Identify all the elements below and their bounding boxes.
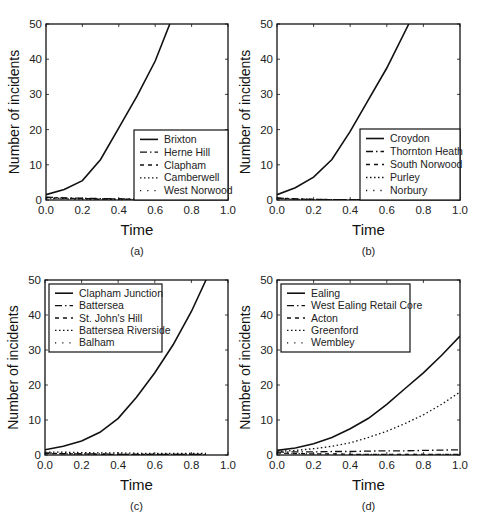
y-tick-label: 30 [29,88,42,100]
y-axis-label: Number of incidents [5,305,21,430]
legend-entry: Thornton Heath [390,145,463,157]
y-tick-label: 10 [28,414,41,426]
y-tick-label: 20 [28,379,41,391]
x-tick-label: 0.2 [306,459,322,471]
x-axis-label: Time [352,221,385,238]
y-tick-label: 50 [29,18,42,30]
x-tick-label: 0.6 [147,459,163,471]
legend-entry: Herne Hill [164,146,210,158]
legend: Clapham JunctionBatterseaSt. John's Hill… [49,284,171,352]
chart-panel-a: 0.00.20.40.60.81.001020304050TimeNumber … [6,18,236,257]
panel-label: (a) [130,245,143,257]
y-tick-label: 20 [29,124,42,136]
y-tick-label: 40 [29,53,42,65]
x-tick-label: 0.4 [110,459,127,471]
series-line [277,453,460,454]
series-line [277,392,460,452]
legend-entry: Norbury [390,184,428,196]
series-line [45,452,206,453]
x-tick-label: 0.8 [184,204,200,216]
x-tick-label: 0.2 [306,204,322,216]
x-axis-label: Time [120,476,153,493]
y-tick-label: 20 [260,379,273,391]
series-line [277,336,460,450]
x-tick-label: 0.6 [147,204,163,216]
y-tick-label: 30 [260,344,273,356]
chart-panel-c: 0.00.20.40.60.81.001020304050TimeNumber … [5,274,236,512]
y-tick-label: 50 [260,274,273,286]
y-tick-label: 30 [260,88,273,100]
x-tick-label: 0.8 [183,459,199,471]
y-tick-label: 40 [260,309,273,321]
chart-panel-d: 0.00.20.40.60.81.001020304050TimeNumber … [237,274,468,512]
y-tick-label: 40 [260,53,273,65]
legend-entry: St. John's Hill [79,312,142,324]
legend-entry: Croydon [390,132,430,144]
x-tick-label: 0.4 [111,204,128,216]
y-tick-label: 20 [260,124,273,136]
legend-entry: Wembley [311,336,355,348]
legend-entry: Clapham Junction [79,287,163,299]
x-tick-label: 0.4 [342,204,359,216]
y-axis-label: Number of incidents [237,305,253,430]
series-line [277,450,460,452]
x-tick-label: 0.4 [342,459,359,471]
x-tick-label: 0.6 [379,459,395,471]
y-tick-label: 0 [267,449,273,461]
y-tick-label: 0 [35,449,41,461]
x-tick-label: 1.0 [220,204,236,216]
chart-panel-b: 0.00.20.40.60.81.001020304050TimeNumber … [237,18,468,257]
legend: EalingWest Ealing Retail CoreActonGreenf… [281,284,422,352]
legend: CroydonThornton HeathSouth NorwoodPurley… [360,129,463,200]
panel-label: (b) [362,245,375,257]
x-tick-label: 0.2 [74,204,90,216]
legend-entry: South Norwood [390,158,463,170]
x-tick-label: 0.2 [74,459,90,471]
series-group [277,336,460,454]
legend-entry: Clapham [164,159,206,171]
legend-entry: Brixton [164,133,197,145]
y-tick-label: 50 [28,274,41,286]
legend-entry: Balham [79,336,115,348]
y-tick-label: 10 [260,414,273,426]
legend-entry: Camberwell [164,171,219,183]
x-axis-label: Time [121,221,154,238]
x-tick-label: 0.8 [415,459,431,471]
y-tick-label: 30 [28,344,41,356]
y-tick-label: 10 [29,159,42,171]
y-axis-label: Number of incidents [237,50,253,175]
x-tick-label: 1.0 [452,204,468,216]
legend-entry: Greenford [311,324,358,336]
legend-entry: Ealing [311,287,340,299]
legend-entry: Battersea Riverside [79,324,171,336]
y-tick-label: 40 [28,309,41,321]
legend-entry: Acton [311,312,338,324]
x-tick-label: 0.6 [379,204,395,216]
y-axis-label: Number of incidents [6,50,22,175]
y-tick-label: 0 [267,194,273,206]
legend-entry: Battersea [79,299,124,311]
x-axis-label: Time [352,476,385,493]
legend-entry: West Ealing Retail Core [311,299,422,311]
panel-label: (d) [362,500,375,512]
legend-entry: Purley [390,171,421,183]
figure-canvas: 0.00.20.40.60.81.001020304050TimeNumber … [0,0,480,526]
x-tick-label: 0.8 [415,204,431,216]
x-tick-label: 1.0 [452,459,468,471]
y-tick-label: 0 [36,194,42,206]
x-tick-label: 1.0 [220,459,236,471]
y-tick-label: 10 [260,159,273,171]
legend-entry: West Norwood [164,184,233,196]
legend: BrixtonHerne HillClaphamCamberwellWest N… [134,130,233,200]
panel-label: (c) [130,500,143,512]
y-tick-label: 50 [260,18,273,30]
